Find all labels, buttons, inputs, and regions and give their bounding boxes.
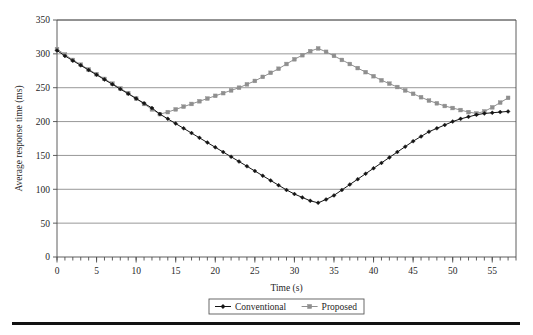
x-tick-label-40: 40 — [369, 266, 379, 276]
datapoint-proposed-35 — [332, 54, 336, 58]
legend: ConventionalProposed — [209, 299, 364, 314]
datapoint-proposed-18 — [198, 99, 202, 103]
bottom-rule — [12, 322, 520, 325]
y-tick-label-300: 300 — [36, 49, 51, 59]
datapoint-proposed-16 — [182, 105, 186, 109]
datapoint-conventional-31 — [300, 195, 304, 199]
series-conventional — [55, 48, 510, 204]
datapoint-conventional-57 — [506, 109, 510, 113]
series-proposed — [55, 47, 510, 116]
datapoint-conventional-56 — [498, 110, 502, 114]
x-tick-label-10: 10 — [131, 266, 141, 276]
x-tick-label-20: 20 — [211, 266, 221, 276]
datapoint-proposed-40 — [372, 74, 376, 78]
datapoint-proposed-51 — [459, 108, 463, 112]
series-line-conventional — [57, 50, 508, 202]
datapoint-proposed-23 — [237, 86, 241, 90]
figure: 0501001502002503003500510152025303540455… — [0, 0, 533, 335]
x-tick-label-50: 50 — [448, 266, 458, 276]
x-tick-label-0: 0 — [55, 266, 60, 276]
y-tick-label-50: 50 — [41, 219, 51, 229]
x-tick-label-5: 5 — [94, 266, 99, 276]
y-tick-label-100: 100 — [36, 185, 51, 195]
datapoint-conventional-52 — [467, 115, 471, 119]
y-axis: 050100150200250300350 — [36, 15, 57, 262]
x-tick-label-45: 45 — [408, 266, 418, 276]
datapoint-proposed-42 — [387, 82, 391, 86]
datapoint-proposed-27 — [269, 71, 273, 75]
x-axis: 0510152025303540455055 — [55, 257, 516, 276]
datapoint-proposed-36 — [340, 58, 344, 62]
datapoint-proposed-29 — [285, 62, 289, 66]
datapoint-proposed-38 — [356, 66, 360, 70]
x-tick-label-55: 55 — [488, 266, 498, 276]
datapoint-conventional-34 — [324, 197, 328, 201]
gridlines — [57, 20, 516, 223]
datapoint-proposed-28 — [277, 67, 281, 71]
datapoint-proposed-39 — [364, 70, 368, 74]
y-tick-label-200: 200 — [36, 117, 51, 127]
plot-frame — [57, 20, 516, 257]
datapoint-proposed-48 — [435, 101, 439, 105]
datapoint-proposed-57 — [506, 96, 510, 100]
datapoint-conventional-55 — [490, 111, 494, 115]
datapoint-proposed-31 — [300, 53, 304, 57]
line-chart: 0501001502002503003500510152025303540455… — [0, 0, 533, 335]
datapoint-proposed-30 — [293, 57, 297, 61]
datapoint-proposed-52 — [467, 110, 471, 114]
datapoint-proposed-37 — [348, 62, 352, 66]
datapoint-proposed-32 — [308, 49, 312, 53]
datapoint-proposed-24 — [245, 82, 249, 86]
legend-label-conventional: Conventional — [235, 302, 287, 312]
x-tick-label-35: 35 — [329, 266, 339, 276]
datapoint-conventional-30 — [292, 192, 296, 196]
datapoint-proposed-41 — [380, 78, 384, 82]
datapoint-proposed-25 — [253, 79, 257, 83]
datapoint-proposed-17 — [190, 102, 194, 106]
legend-marker-proposed — [308, 304, 312, 308]
datapoint-proposed-45 — [411, 92, 415, 96]
x-axis-title: Time (s) — [270, 283, 302, 294]
datapoint-proposed-33 — [316, 47, 320, 51]
datapoint-proposed-21 — [221, 91, 225, 95]
y-tick-label-150: 150 — [36, 151, 51, 161]
datapoint-conventional-33 — [316, 201, 320, 205]
datapoint-proposed-50 — [451, 106, 455, 110]
datapoint-proposed-22 — [229, 89, 233, 93]
y-tick-label-350: 350 — [36, 15, 51, 25]
datapoint-proposed-46 — [419, 95, 423, 99]
datapoint-proposed-20 — [213, 94, 217, 98]
datapoint-proposed-49 — [443, 104, 447, 108]
x-tick-label-25: 25 — [250, 266, 260, 276]
series-line-proposed — [57, 48, 508, 114]
datapoint-proposed-19 — [205, 97, 209, 101]
datapoint-conventional-49 — [443, 123, 447, 127]
y-tick-label-0: 0 — [45, 252, 50, 262]
datapoint-proposed-34 — [324, 50, 328, 54]
datapoint-proposed-47 — [427, 99, 431, 103]
datapoint-conventional-50 — [451, 120, 455, 124]
y-axis-title: Average response time (ms) — [14, 85, 25, 191]
datapoint-proposed-43 — [395, 85, 399, 89]
x-tick-label-30: 30 — [290, 266, 300, 276]
datapoint-conventional-48 — [435, 126, 439, 130]
datapoint-proposed-26 — [261, 75, 265, 79]
legend-label-proposed: Proposed — [322, 302, 358, 312]
x-tick-label-15: 15 — [171, 266, 181, 276]
datapoint-proposed-44 — [403, 89, 407, 93]
datapoint-proposed-55 — [490, 105, 494, 109]
datapoint-conventional-32 — [308, 199, 312, 203]
datapoint-conventional-51 — [459, 117, 463, 121]
y-tick-label-250: 250 — [36, 83, 51, 93]
datapoint-proposed-14 — [166, 110, 170, 114]
datapoint-proposed-56 — [498, 101, 502, 105]
datapoint-proposed-15 — [174, 107, 178, 111]
